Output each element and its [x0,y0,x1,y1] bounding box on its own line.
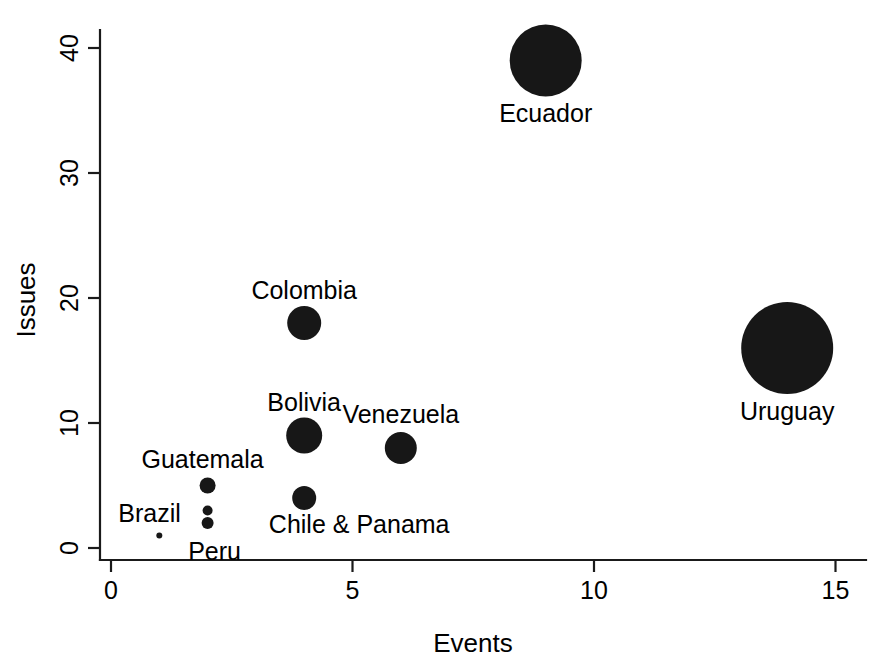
data-point-bubble [510,25,582,97]
data-point-bubble [385,432,417,464]
data-point-bubble [286,418,322,454]
x-axis-title: Events [433,630,513,656]
data-point-bubble [156,533,162,539]
x-tick-label: 5 [346,578,360,603]
plot-canvas [0,0,882,666]
bubble-chart-figure: 051015010203040EcuadorUruguayColombiaBol… [0,0,882,666]
data-point-bubble [202,517,214,529]
data-point-bubble [741,302,833,394]
x-tick-label: 15 [822,578,850,603]
data-point-bubble [203,506,213,516]
data-point-label: Ecuador [499,100,592,125]
data-point-label: Guatemala [141,446,263,471]
data-point-bubble [292,486,316,510]
y-axis-title: Issues [13,262,39,337]
y-tick-label: 30 [57,159,82,187]
data-point-bubble [287,306,321,340]
data-point-label: Peru [188,539,241,564]
data-point-label: Chile & Panama [269,512,450,537]
y-tick-label: 10 [57,409,82,437]
data-point-label: Venezuela [342,402,459,427]
y-tick-label: 40 [57,34,82,62]
data-point-bubble [200,478,216,494]
x-tick-label: 0 [104,578,118,603]
data-point-label: Bolivia [267,389,341,414]
x-tick-label: 10 [580,578,608,603]
data-point-label: Colombia [251,278,357,303]
y-tick-label: 0 [57,541,82,555]
data-point-label: Uruguay [740,399,835,424]
data-point-label: Brazil [118,500,181,525]
y-tick-label: 20 [57,284,82,312]
